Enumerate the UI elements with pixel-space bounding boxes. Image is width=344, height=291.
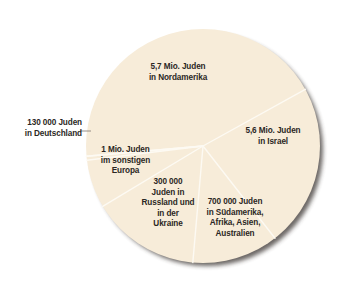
label-nordamerika: 5,7 Mio. Juden in Nordamerika xyxy=(128,62,228,83)
label-israel: 5,6 Mio. Juden in Israel xyxy=(228,126,318,147)
label-russland-ukraine: 300 000 Juden in Russland und in der Ukr… xyxy=(133,177,203,230)
label-deutschland: 130 000 Juden in Deutschland xyxy=(4,118,82,139)
label-sonstiges-europa: 1 Mio. Juden im sonstigen Europa xyxy=(88,145,163,177)
label-suedamerika-afrika-asien-australien: 700 000 Juden in Südamerika, Afrika, Asi… xyxy=(195,197,275,239)
